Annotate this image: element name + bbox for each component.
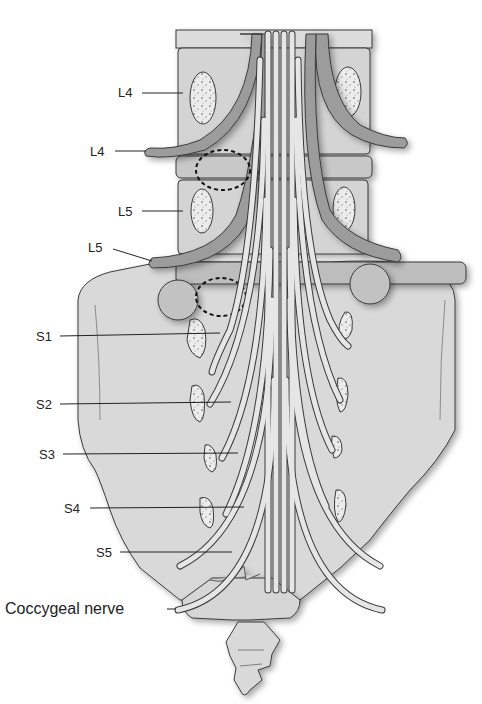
label-s4: S4	[64, 502, 80, 515]
label-coccygeal-nerve: Coccygeal nerve	[5, 601, 124, 617]
label-l5-body: L5	[118, 205, 132, 218]
spinal-nerve-diagram: ‘ L4 L4 L5 L5 S1 S2 S3 S4 S5 Coccygeal n…	[0, 0, 482, 704]
label-s1: S1	[36, 330, 52, 343]
label-s2: S2	[36, 398, 52, 411]
anatomy-illustration	[0, 0, 482, 704]
cropped-glyph: ‘	[52, 0, 58, 2]
label-l4-root: L4	[90, 145, 104, 158]
label-s5: S5	[96, 546, 112, 559]
label-l5-root: L5	[88, 241, 102, 254]
label-s3: S3	[39, 448, 55, 461]
label-l4-body: L4	[118, 86, 132, 99]
